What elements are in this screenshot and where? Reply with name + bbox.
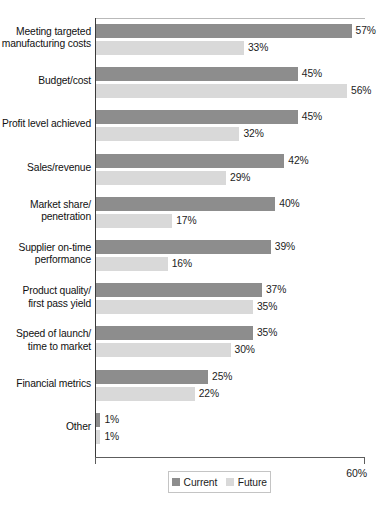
bar-value-future: 56%: [351, 84, 371, 98]
axis-rule-top: [95, 18, 365, 19]
category-label: Meeting targetedmanufacturing costs: [0, 26, 91, 51]
bar-value-future: 29%: [230, 171, 250, 185]
bar-value-current: 25%: [212, 370, 232, 384]
bar-group: 45%56%: [96, 65, 380, 102]
category-label: Market share/penetration: [0, 199, 91, 224]
bar-value-current: 35%: [257, 326, 277, 340]
category-row: Other1%1%: [0, 411, 380, 448]
bar-group: 1%1%: [96, 411, 380, 448]
bar-future: [96, 214, 172, 228]
bar-value-current: 40%: [279, 197, 299, 211]
bar-value-future: 22%: [199, 387, 219, 401]
category-label: Budget/cost: [0, 75, 91, 87]
axis-max-label: 60%: [331, 467, 367, 479]
category-row: Meeting targetedmanufacturing costs57%33…: [0, 22, 380, 59]
category-label: Speed of launch/time to market: [0, 328, 91, 353]
horizontal-bar-chart: 60% Meeting targetedmanufacturing costs5…: [0, 0, 380, 517]
bar-group: 37%35%: [96, 281, 380, 318]
category-row: Financial metrics25%22%: [0, 368, 380, 405]
bar-group: 35%30%: [96, 324, 380, 361]
category-label: Product quality/first pass yield: [0, 285, 91, 310]
legend-swatch-icon: [226, 478, 234, 486]
bar-current: [96, 24, 352, 38]
bar-group: 40%17%: [96, 195, 380, 232]
bar-current: [96, 67, 298, 81]
category-row: Sales/revenue42%29%: [0, 152, 380, 189]
bar-current: [96, 197, 275, 211]
bar-value-future: 1%: [104, 430, 119, 444]
bar-future: [96, 387, 195, 401]
bar-value-future: 33%: [248, 41, 268, 55]
bar-value-current: 39%: [275, 240, 295, 254]
bar-group: 57%33%: [96, 22, 380, 59]
bar-value-current: 45%: [302, 110, 322, 124]
bar-future: [96, 84, 347, 98]
bar-value-current: 1%: [104, 413, 119, 427]
category-label: Sales/revenue: [0, 162, 91, 174]
bar-current: [96, 326, 253, 340]
category-label: Financial metrics: [0, 378, 91, 390]
axis-tick-max: [364, 457, 365, 464]
bar-future: [96, 300, 253, 314]
bar-value-current: 42%: [288, 154, 308, 168]
bar-value-future: 30%: [235, 343, 255, 357]
bar-current: [96, 370, 208, 384]
category-label: Other: [0, 421, 91, 433]
category-row: Product quality/first pass yield37%35%: [0, 281, 380, 318]
bar-group: 39%16%: [96, 238, 380, 275]
bar-future: [96, 171, 226, 185]
bar-value-current: 37%: [266, 283, 286, 297]
bar-current: [96, 154, 284, 168]
bar-value-future: 17%: [176, 214, 196, 228]
axis-rule-bottom: [95, 457, 365, 458]
bar-value-future: 35%: [257, 300, 277, 314]
legend-item[interactable]: Future: [226, 477, 267, 488]
axis-tick-zero: [95, 457, 96, 464]
bar-value-current: 57%: [356, 24, 376, 38]
bar-value-future: 16%: [172, 257, 192, 271]
bar-future: [96, 127, 239, 141]
bar-group: 25%22%: [96, 368, 380, 405]
bar-current: [96, 110, 298, 124]
category-label: Supplier on-timeperformance: [0, 242, 91, 267]
category-row: Profit level achieved45%32%: [0, 108, 380, 145]
bar-future: [96, 343, 231, 357]
bar-future: [96, 430, 100, 444]
chart-legend: CurrentFuture: [168, 471, 271, 493]
bar-current: [96, 240, 271, 254]
plot-area: 60% Meeting targetedmanufacturing costs5…: [0, 18, 380, 458]
bar-future: [96, 257, 168, 271]
legend-label: Current: [184, 477, 218, 488]
category-row: Speed of launch/time to market35%30%: [0, 324, 380, 361]
category-row: Budget/cost45%56%: [0, 65, 380, 102]
bar-value-current: 45%: [302, 67, 322, 81]
bar-group: 45%32%: [96, 108, 380, 145]
bar-value-future: 32%: [243, 127, 263, 141]
bar-current: [96, 283, 262, 297]
category-row: Market share/penetration40%17%: [0, 195, 380, 232]
category-label: Profit level achieved: [0, 118, 91, 130]
bar-group: 42%29%: [96, 152, 380, 189]
legend-item[interactable]: Current: [172, 477, 217, 488]
bar-current: [96, 413, 100, 427]
legend-swatch-icon: [172, 478, 180, 486]
bar-future: [96, 41, 244, 55]
legend-label: Future: [238, 477, 267, 488]
category-row: Supplier on-timeperformance39%16%: [0, 238, 380, 275]
